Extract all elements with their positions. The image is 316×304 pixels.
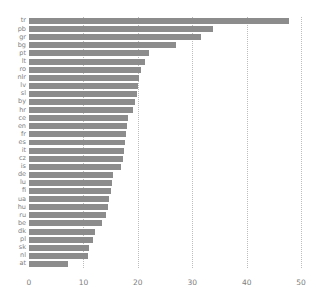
y-axis-tick-label: ua [0,196,26,202]
y-axis-tick-label: is [0,163,26,169]
y-axis-tick-label: ce [0,115,26,121]
y-axis-tick-label: fi [0,187,26,193]
bar [29,83,138,89]
bar [29,156,123,162]
bar [29,67,141,73]
x-axis-tick-label: 10 [79,278,89,287]
bar [29,115,128,121]
y-axis-tick-label: pt [0,50,26,56]
y-axis-tick-label: at [0,260,26,266]
bar-row [29,140,312,146]
bar [29,42,176,48]
bar-row [29,59,312,65]
y-axis-tick-label: bg [0,42,26,48]
bar-row [29,107,312,113]
y-axis-tick-label: es [0,139,26,145]
bar-row [29,196,312,202]
bar [29,196,109,202]
bar-row [29,156,312,162]
y-axis-tick-label: by [0,98,26,104]
bar-row [29,148,312,154]
bar-row [29,220,312,226]
bar-row [29,91,312,97]
bar-row [29,123,312,129]
y-axis-tick-label: hu [0,204,26,210]
bar-row [29,229,312,235]
bar [29,75,139,81]
y-axis-tick-label: dk [0,228,26,234]
y-axis-tick-label: it [0,147,26,153]
y-axis-tick-label: lv [0,82,26,88]
bar-row [29,204,312,210]
bar [29,229,95,235]
bar-row [29,67,312,73]
x-axis-tick-label: 30 [187,278,197,287]
y-axis-tick-label: pl [0,236,26,242]
y-axis-tick-label: de [0,171,26,177]
bar-row [29,188,312,194]
x-axis-tick-label: 0 [27,278,32,287]
bar-row [29,75,312,81]
bar [29,237,93,243]
bar [29,148,124,154]
bar-row [29,26,312,32]
plot-area [29,17,312,268]
y-axis-tick-label: nl [0,252,26,258]
bar [29,220,102,226]
bar [29,91,137,97]
y-axis-tick-label: en [0,123,26,129]
bar-chart: trpbgrbgptltronlrlvslbyhrceenfresitczisd… [0,0,316,304]
x-axis-tick-label: 20 [133,278,143,287]
bar [29,188,111,194]
bar [29,131,126,137]
y-axis-tick-label: pb [0,26,26,32]
bar-row [29,253,312,259]
bar-row [29,99,312,105]
bar [29,26,213,32]
bar-row [29,172,312,178]
x-axis-tick-label: 50 [296,278,306,287]
bar-row [29,50,312,56]
y-axis-tick-label: sl [0,90,26,96]
bar [29,99,135,105]
y-axis-tick-label: ro [0,66,26,72]
y-axis-tick-label: be [0,220,26,226]
bar [29,18,289,24]
bar [29,261,68,267]
y-axis-tick-label: gr [0,34,26,40]
bar-row [29,245,312,251]
bar-row [29,180,312,186]
y-axis-tick-label: sk [0,244,26,250]
bar-row [29,261,312,267]
bar [29,245,89,251]
bar [29,172,113,178]
bar-row [29,237,312,243]
bar [29,253,88,259]
x-axis-tick-labels: 01020304050 [29,272,312,292]
bar [29,59,145,65]
bar [29,164,121,170]
y-axis-tick-label: hr [0,107,26,113]
y-axis-tick-label: nlr [0,74,26,80]
x-axis-tick-label: 40 [242,278,252,287]
y-axis-tick-label: lu [0,179,26,185]
y-axis-tick-labels: trpbgrbgptltronlrlvslbyhrceenfresitczisd… [0,17,26,268]
y-axis-tick-label: cz [0,155,26,161]
bar [29,204,108,210]
y-axis-tick-label: tr [0,17,26,23]
bar-row [29,83,312,89]
bar-row [29,115,312,121]
bar-row [29,212,312,218]
y-axis-tick-label: lt [0,58,26,64]
bar-row [29,164,312,170]
y-axis-tick-label: fr [0,131,26,137]
bar [29,180,112,186]
bar-row [29,34,312,40]
bar [29,50,149,56]
bar-row [29,18,312,24]
bar [29,123,127,129]
bar [29,34,201,40]
bar [29,107,133,113]
bar-row [29,131,312,137]
bar [29,140,125,146]
